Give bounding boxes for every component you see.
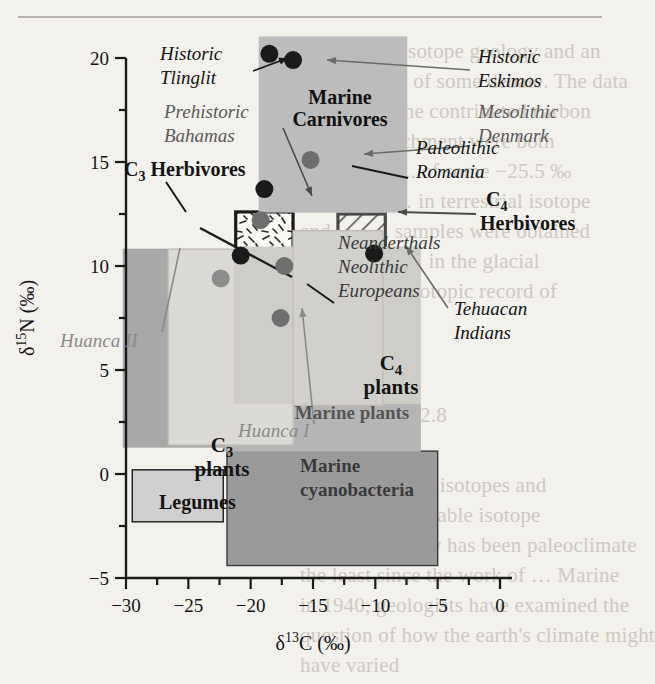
x-tick-label: −20: [236, 595, 266, 616]
field-label-c4-plants-2: plants: [364, 375, 419, 399]
data-point-huanca-ii-point: [212, 269, 230, 287]
annotation-prehistoric-bahamas-2: Bahamas: [164, 125, 235, 146]
field-label-legumes: Legumes: [159, 491, 236, 514]
data-point-prehistoric-bahamas: [252, 211, 270, 229]
annotation-historic-tlinglit-1: Historic: [159, 43, 223, 64]
annotation-neanderthals-neolithic-europeans-1: Neanderthals: [337, 232, 440, 253]
x-tick-label: −25: [173, 595, 203, 616]
field-label-c3-plants-2: plants: [195, 457, 250, 481]
data-point-historic-tlinglit: [260, 45, 278, 63]
field-label-marine-cyanobacteria: Marine: [300, 455, 360, 476]
y-tick-label: 0: [100, 464, 110, 485]
field-label-c4-herbivores-2: Herbivores: [480, 212, 575, 234]
annotation-historic-eskimos-2: Eskimos: [477, 70, 541, 91]
data-point-huanca-i-point: [272, 309, 290, 327]
data-point-mesolithic-denmark: [302, 151, 320, 169]
data-point-historic-eskimos: [284, 51, 302, 69]
field-label-c3-herbivores: C3 Herbivores: [124, 158, 246, 184]
field-label-marine-cyanobacteria-2: cyanobacteria: [300, 479, 414, 500]
field-label-marine-plants: Marine plants: [295, 402, 410, 423]
y-tick-label: 5: [100, 360, 110, 381]
y-tick-label: 15: [90, 152, 109, 173]
leader-line: [166, 182, 186, 212]
annotation-tehuacan-indians-2: Indians: [453, 322, 511, 343]
x-tick-label: −15: [298, 595, 328, 616]
data-point-neanderthals-point: [275, 257, 293, 275]
annotation-paleolithic-romania-2: Romania: [415, 161, 485, 182]
annotation-mesolithic-denmark-1: Mesolithic: [477, 101, 559, 122]
annotation-historic-eskimos-1: Historic: [477, 46, 541, 67]
x-axis-title: δ13C (‰): [275, 630, 350, 655]
annotation-huanca-ii-1: Huanca II: [59, 330, 139, 351]
y-axis-title: δ15N (‰): [14, 280, 39, 356]
x-tick-label: −5: [428, 595, 448, 616]
annotation-huanca-i-1: Huanca I: [237, 420, 311, 441]
field-label-c4-herbivores: C4: [486, 188, 507, 214]
annotation-neanderthals-neolithic-europeans-3: Europeans: [337, 280, 420, 301]
x-tick-label: −10: [360, 595, 390, 616]
y-tick-label: 20: [90, 48, 109, 69]
annotation-prehistoric-bahamas-1: Prehistoric: [163, 101, 249, 122]
annotation-tehuacan-indians-1: Tehuacan: [454, 298, 527, 319]
leader-line: [398, 212, 476, 214]
x-tick-label: −30: [111, 595, 141, 616]
field-label-marine-carnivores-2: Carnivores: [292, 108, 387, 130]
x-tick-label: 0: [495, 595, 505, 616]
y-tick-label: 10: [90, 256, 109, 277]
field-label-marine-carnivores: Marine: [308, 86, 371, 108]
annotation-paleolithic-romania-1: Paleolithic: [415, 137, 500, 158]
annotation-historic-tlinglit-2: Tlinglit: [160, 67, 217, 88]
data-point-c3-herbivores-point: [232, 247, 250, 265]
y-tick-label: −5: [89, 568, 109, 589]
annotation-neanderthals-neolithic-europeans-2: Neolithic: [337, 256, 408, 277]
data-point-paleolithic-romania: [255, 180, 273, 198]
